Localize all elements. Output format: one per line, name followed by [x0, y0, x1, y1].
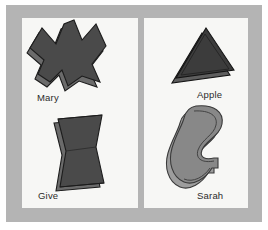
shape-label-mary: Mary: [37, 92, 59, 103]
shape-label-give: Give: [38, 190, 58, 201]
shape-sarah: [166, 104, 242, 188]
shape-label-apple: Apple: [197, 89, 222, 100]
m-zigzag-polygon-icon: [26, 20, 110, 88]
figure-frame: Mary Give Apple: [0, 0, 268, 230]
hourglass-bowtie-icon: [50, 113, 112, 189]
curved-blob-icon: [166, 104, 242, 188]
triangle-icon: [172, 26, 238, 86]
shape-label-sarah: Sarah: [197, 190, 223, 201]
shape-mary: [26, 20, 110, 88]
shape-give: [50, 113, 112, 189]
shape-apple: [172, 26, 238, 86]
